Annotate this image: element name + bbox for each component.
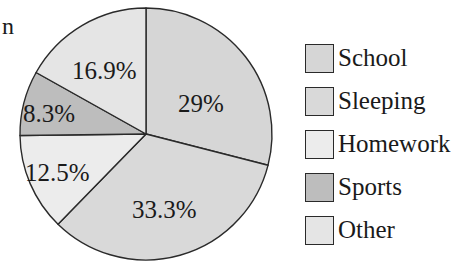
legend-label-sports: Sports (338, 172, 402, 202)
legend-item-sports: Sports (305, 172, 450, 202)
legend-swatch-sleeping (305, 87, 334, 116)
legend-swatch-school (305, 44, 334, 73)
legend-item-other: Other (305, 215, 450, 245)
legend-label-school: School (338, 43, 407, 73)
legend-item-sleeping: Sleeping (305, 86, 450, 116)
legend-label-homework: Homework (338, 129, 450, 159)
slice-label-other: 16.9% (72, 57, 137, 84)
legend-item-school: School (305, 43, 450, 73)
legend-swatch-homework (305, 130, 334, 159)
slice-label-sleeping: 33.3% (132, 196, 197, 223)
slice-label-homework: 12.5% (25, 159, 90, 186)
legend-swatch-other (305, 216, 334, 245)
slice-label-sports: 8.3% (23, 100, 75, 127)
legend-label-sleeping: Sleeping (338, 86, 426, 116)
slice-label-school: 29% (178, 90, 224, 117)
legend-swatch-sports (305, 173, 334, 202)
legend-label-other: Other (338, 215, 395, 245)
legend-item-homework: Homework (305, 129, 450, 159)
chart-legend: School Sleeping Homework Sports Other (305, 43, 450, 258)
